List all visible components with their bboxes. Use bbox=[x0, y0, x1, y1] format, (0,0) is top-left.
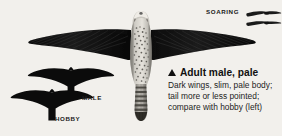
caption-line: compare with hobby (left) bbox=[168, 102, 282, 113]
up-triangle-icon bbox=[168, 69, 176, 76]
field-guide-plate: SOARING MALE HOBBY Adult male, pale Dark… bbox=[0, 0, 282, 136]
soaring-label: SOARING bbox=[206, 9, 239, 15]
male-silhouette-label: MALE bbox=[82, 95, 102, 101]
caption-heading-text: Adult male, pale bbox=[180, 67, 258, 78]
caption-line: tail more or less pointed; bbox=[168, 91, 282, 102]
falcon-body bbox=[130, 18, 152, 86]
caption-block: Adult male, pale Dark wings, slim, pale … bbox=[168, 67, 282, 113]
caption-heading: Adult male, pale bbox=[168, 67, 282, 78]
caption-line: Dark wings, slim, pale body; bbox=[168, 80, 282, 91]
hobby-silhouette-label: HOBBY bbox=[55, 116, 80, 122]
